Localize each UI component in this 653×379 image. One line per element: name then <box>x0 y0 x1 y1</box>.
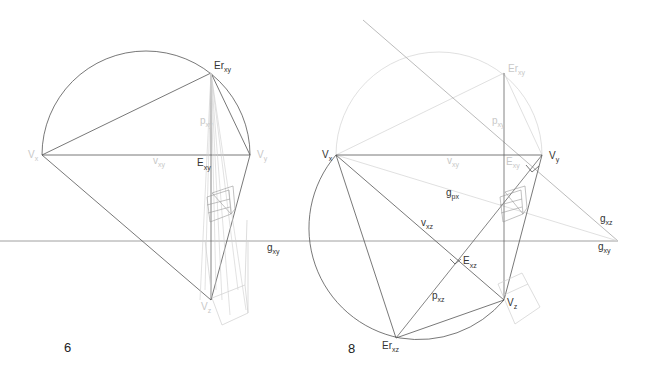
figure-number-6: 6 <box>64 340 71 355</box>
label-vy: Vy <box>257 149 268 163</box>
figure-6-labels: Erxy Vx Vy vxy pxy Exy gxy Vz 6 <box>28 60 280 355</box>
label-vx: Vx <box>28 149 39 162</box>
figure-number-8: 8 <box>348 341 355 356</box>
label-er-xy-8: Erxy <box>508 63 526 77</box>
label-p-xy-8: pxy <box>492 115 505 129</box>
label-p-xz: pxz <box>432 290 445 303</box>
label-vy-8: Vy <box>549 150 560 164</box>
label-e-xy-8: Exy <box>506 156 520 170</box>
label-vx-8: Vx <box>322 149 333 162</box>
figure-6 <box>0 51 278 325</box>
perspective-construction-diagram: Erxy Vx Vy vxy pxy Exy gxy Vz 6 <box>0 0 653 379</box>
label-v-xz: vxz <box>421 217 434 230</box>
label-v-xy: vxy <box>153 155 166 169</box>
label-er-xz: Erxz <box>382 340 400 353</box>
label-v-xy-8: vxy <box>447 155 460 169</box>
label-g-px: gpx <box>446 187 459 201</box>
label-e-xy: Exy <box>197 157 211 172</box>
label-g-xy: gxy <box>267 242 280 256</box>
label-vz: Vz <box>201 301 212 314</box>
figure-8-labels: Erxy Vx Vy vxy pxy Exy gpx vxz gxz gxy E… <box>322 63 613 356</box>
figure-8 <box>278 20 618 340</box>
label-g-xz: gxz <box>600 213 613 226</box>
label-g-xy-8: gxy <box>598 241 611 255</box>
label-er-xy: Erxy <box>214 60 232 74</box>
